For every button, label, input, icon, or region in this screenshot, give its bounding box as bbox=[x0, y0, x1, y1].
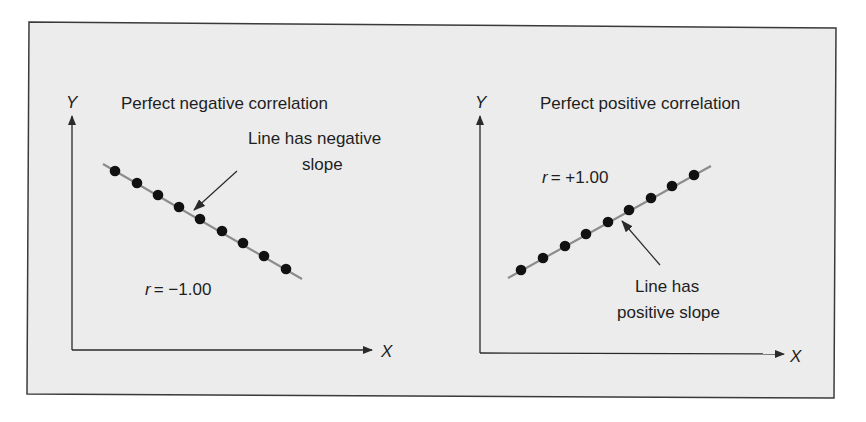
y-axis-label: Y bbox=[66, 93, 79, 112]
data-point bbox=[195, 214, 206, 225]
data-point bbox=[667, 181, 678, 192]
data-point bbox=[646, 193, 657, 204]
x-axis-label: X bbox=[380, 342, 393, 361]
data-point bbox=[132, 178, 143, 189]
annotation-line-2: slope bbox=[302, 155, 343, 174]
data-point bbox=[624, 205, 635, 216]
data-point bbox=[516, 265, 527, 276]
data-point bbox=[110, 166, 121, 177]
correlation-coefficient: r= +1.00 bbox=[542, 168, 608, 187]
data-point bbox=[581, 229, 592, 240]
data-point bbox=[538, 253, 549, 264]
data-point bbox=[174, 202, 185, 213]
panel-title: Perfect negative correlation bbox=[121, 94, 328, 113]
correlation-figure: Perfect negative correlation Y X Line ha… bbox=[0, 0, 866, 422]
annotation-line-2: positive slope bbox=[617, 303, 720, 322]
figure-frame bbox=[27, 22, 836, 398]
data-point bbox=[281, 264, 292, 275]
data-point bbox=[560, 241, 571, 252]
x-axis-label: X bbox=[789, 347, 802, 366]
data-point bbox=[238, 238, 249, 249]
annotation-line-1: Line has negative bbox=[248, 129, 381, 148]
data-point bbox=[603, 217, 614, 228]
data-point bbox=[153, 190, 164, 201]
panel-title: Perfect positive correlation bbox=[540, 94, 740, 113]
data-point bbox=[259, 251, 270, 262]
y-axis-label: Y bbox=[475, 93, 488, 112]
correlation-coefficient: r= −1.00 bbox=[145, 280, 211, 299]
data-point bbox=[217, 226, 228, 237]
data-point bbox=[689, 170, 700, 181]
annotation-line-1: Line has bbox=[635, 277, 699, 296]
